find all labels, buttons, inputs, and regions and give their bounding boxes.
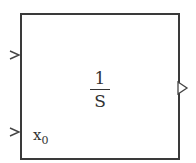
output-port-icon[interactable]	[177, 81, 189, 95]
fraction-bar	[90, 89, 110, 90]
input-port-2-icon[interactable]	[9, 126, 21, 138]
integrator-block[interactable]: 1 S x0	[20, 13, 180, 160]
input-port-1-icon[interactable]	[9, 49, 21, 61]
denominator: S	[94, 92, 106, 110]
initial-condition-label: x0	[33, 127, 48, 149]
numerator: 1	[95, 69, 106, 87]
initial-condition-subscript: 0	[41, 134, 48, 147]
transfer-function: 1 S	[90, 69, 110, 110]
